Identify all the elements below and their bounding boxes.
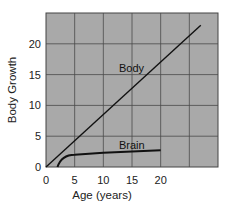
chart: 05101520 05101520 Body Brain Age (years)…	[0, 0, 229, 213]
y-tick-label: 20	[29, 38, 41, 50]
series-label-body: Body	[119, 62, 145, 74]
x-tick-label: 20	[155, 174, 167, 186]
x-tick-label: 15	[126, 174, 138, 186]
y-axis-label: Body Growth	[6, 57, 18, 123]
y-tick-label: 15	[29, 69, 41, 81]
y-tick-label: 0	[35, 161, 41, 173]
x-tick-label: 0	[43, 174, 49, 186]
y-tick-label: 5	[35, 130, 41, 142]
y-tick-labels: 05101520	[29, 38, 41, 173]
x-tick-label: 5	[72, 174, 78, 186]
x-tick-labels: 05101520	[43, 174, 167, 186]
y-tick-label: 10	[29, 99, 41, 111]
x-axis-label: Age (years)	[72, 189, 132, 201]
x-tick-label: 10	[97, 174, 109, 186]
series-label-brain: Brain	[119, 139, 145, 151]
